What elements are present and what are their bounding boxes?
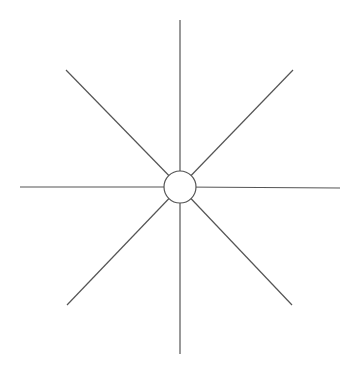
spoke-line-east: [180, 187, 340, 188]
spoke-line-north-east: [180, 70, 293, 187]
center-hub-circle: [164, 171, 196, 203]
spoke-line-south-east: [180, 187, 292, 305]
star-burst-diagram: [0, 0, 357, 374]
spoke-line-south-west: [67, 187, 180, 305]
spoke-line-north-west: [66, 70, 180, 187]
